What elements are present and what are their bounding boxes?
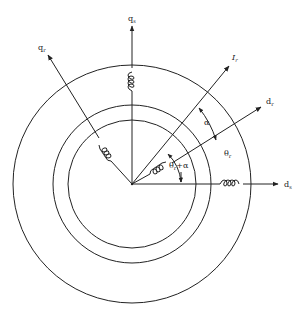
label-ds: ds [284,180,292,190]
dr-axis [132,107,261,184]
qr-axis [48,55,132,184]
ds-axis [132,180,278,186]
label-ir: Ir [231,53,238,63]
label-qs: qs [128,14,136,24]
origin-point [131,183,133,185]
qs-coil-icon [128,72,134,91]
label-dr: dr [266,97,274,107]
dr-coil-icon [150,162,166,174]
machine-axes-diagram: qr qs Ir dr ds α θr θr+α [0,0,307,314]
label-theta-r-plus-alpha: θr+α [169,161,189,171]
label-theta-r: θr [224,149,232,159]
label-alpha: α [204,118,210,127]
label-qr: qr [38,43,46,53]
qr-coil-icon [99,145,111,161]
ds-coil-icon [220,180,239,186]
